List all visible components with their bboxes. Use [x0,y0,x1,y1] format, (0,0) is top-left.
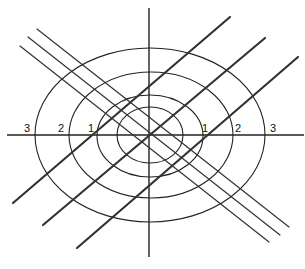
label-left-2: 2 [58,122,64,134]
axes [7,8,304,257]
label-left-1: 1 [88,122,94,134]
label-right-2: 2 [235,122,241,134]
thick-line-3 [77,57,298,248]
label-right-3: 3 [270,122,276,134]
elliptical-contour-diagram: 3 2 1 1 2 3 [0,0,305,269]
thick-parallel-lines [13,17,298,248]
label-left-3: 3 [24,122,30,134]
diagram-canvas: 3 2 1 1 2 3 [0,0,305,269]
thick-line-1 [13,17,230,203]
label-right-1: 1 [202,122,208,134]
